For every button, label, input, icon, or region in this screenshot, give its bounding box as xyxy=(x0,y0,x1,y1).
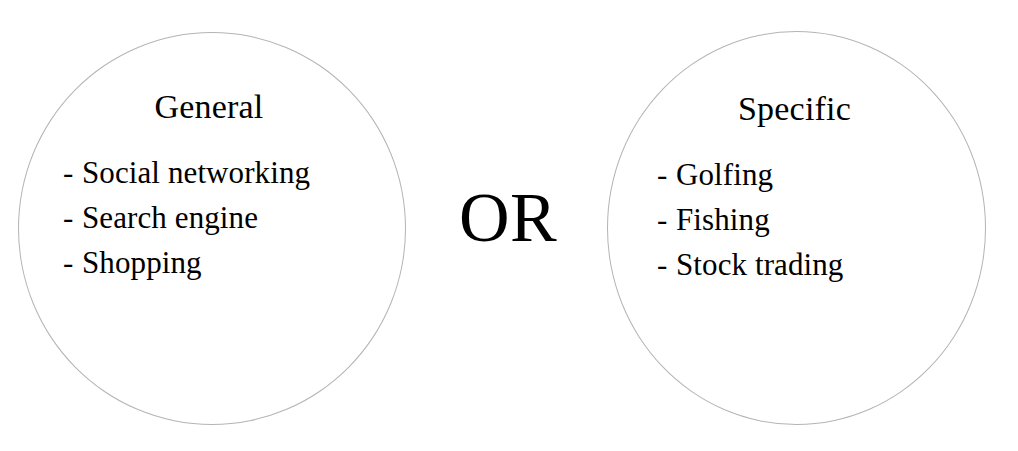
list-item-label: Fishing xyxy=(676,202,770,237)
list-item-label: Shopping xyxy=(82,245,202,280)
list-item-label: Golfing xyxy=(676,157,773,192)
list-item: -Social networking xyxy=(63,150,406,195)
bullet-dash: - xyxy=(657,152,676,197)
list-item: -Search engine xyxy=(63,195,406,240)
bullet-dash: - xyxy=(657,242,676,287)
group-specific: Specific -Golfing -Fishing -Stock tradin… xyxy=(607,31,986,287)
bullet-dash: - xyxy=(63,150,82,195)
list-item-label: Social networking xyxy=(82,155,310,190)
list-item-label: Search engine xyxy=(82,200,258,235)
list-item: -Stock trading xyxy=(657,242,986,287)
bullet-dash: - xyxy=(657,197,676,242)
list-item: -Golfing xyxy=(657,152,986,197)
group-specific-title: Specific xyxy=(607,92,986,126)
bullet-dash: - xyxy=(63,240,82,285)
list-item-label: Stock trading xyxy=(676,247,843,282)
list-item: -Shopping xyxy=(63,240,406,285)
group-specific-item-list: -Golfing -Fishing -Stock trading xyxy=(607,152,986,287)
diagram-canvas: General -Social networking -Search engin… xyxy=(0,0,1018,451)
group-general-item-list: -Social networking -Search engine -Shopp… xyxy=(18,150,406,285)
or-connector-label: OR xyxy=(456,183,560,253)
group-general-title: General xyxy=(18,90,406,124)
group-general: General -Social networking -Search engin… xyxy=(18,32,406,285)
list-item: -Fishing xyxy=(657,197,986,242)
bullet-dash: - xyxy=(63,195,82,240)
